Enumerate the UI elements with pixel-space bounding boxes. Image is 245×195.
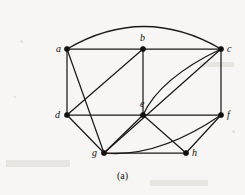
vertex-label-b: b [140, 33, 145, 43]
vertex-label-c: c [227, 44, 231, 54]
vertex-label-a: a [56, 44, 61, 54]
graph-edge-ag [67, 49, 104, 153]
graph-edge-eh [143, 115, 186, 153]
edge-layer [67, 27, 221, 154]
graph-edge-dg [67, 115, 104, 153]
graph-drawing [0, 0, 245, 195]
vertex-label-g: g [92, 148, 97, 158]
graph-vertex-d [64, 112, 69, 117]
graph-vertex-h [183, 150, 188, 155]
vertex-label-e: e [140, 99, 144, 109]
vertex-label-h: h [192, 148, 197, 158]
graph-vertex-g [101, 150, 106, 155]
graph-vertex-c [218, 46, 223, 51]
vertex-label-f: f [227, 110, 230, 120]
graph-edge-cg [104, 49, 221, 153]
graph-vertex-b [140, 46, 145, 51]
figure-container: abcdefgh (a) [0, 0, 245, 195]
vertex-label-d: d [55, 110, 60, 120]
figure-caption: (a) [0, 170, 245, 181]
graph-edge-eg [104, 115, 143, 153]
graph-vertex-e [140, 112, 145, 117]
graph-vertex-a [64, 46, 69, 51]
graph-vertex-f [218, 112, 223, 117]
